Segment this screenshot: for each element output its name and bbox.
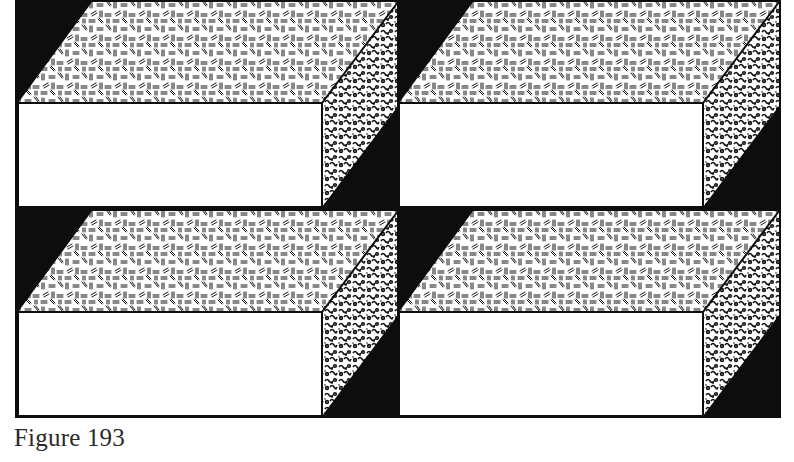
- tile-bottom-right: [397, 209, 780, 418]
- block-pattern-figure: [0, 0, 794, 430]
- figure-caption: Figure 193: [14, 424, 125, 452]
- tile-top-right: [397, 0, 780, 209]
- tile-bottom-left: [16, 209, 399, 418]
- tile-top-left: [16, 0, 399, 209]
